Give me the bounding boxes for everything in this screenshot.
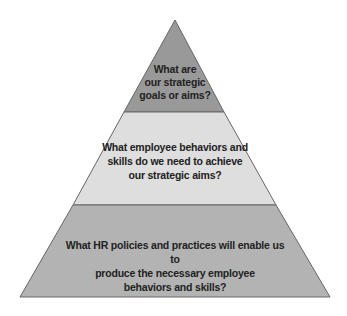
bottom-line-1: What HR policies and practices will enab… [60,238,290,266]
top-level-question: What are our strategic goals or aims? [125,63,225,102]
strategy-pyramid-diagram: What are our strategic goals or aims? Wh… [0,0,347,316]
top-line-1: What are [125,63,225,76]
middle-line-3: our strategic aims? [90,168,260,182]
bottom-line-3: behaviors and skills? [60,280,290,294]
middle-line-2: skills do we need to achieve [90,154,260,168]
middle-line-1: What employee behaviors and [90,140,260,154]
top-line-3: goals or aims? [125,89,225,102]
bottom-level-question: What HR policies and practices will enab… [60,238,290,294]
top-line-2: our strategic [125,76,225,89]
bottom-line-2: produce the necessary employee [60,266,290,280]
middle-level-question: What employee behaviors and skills do we… [90,140,260,182]
